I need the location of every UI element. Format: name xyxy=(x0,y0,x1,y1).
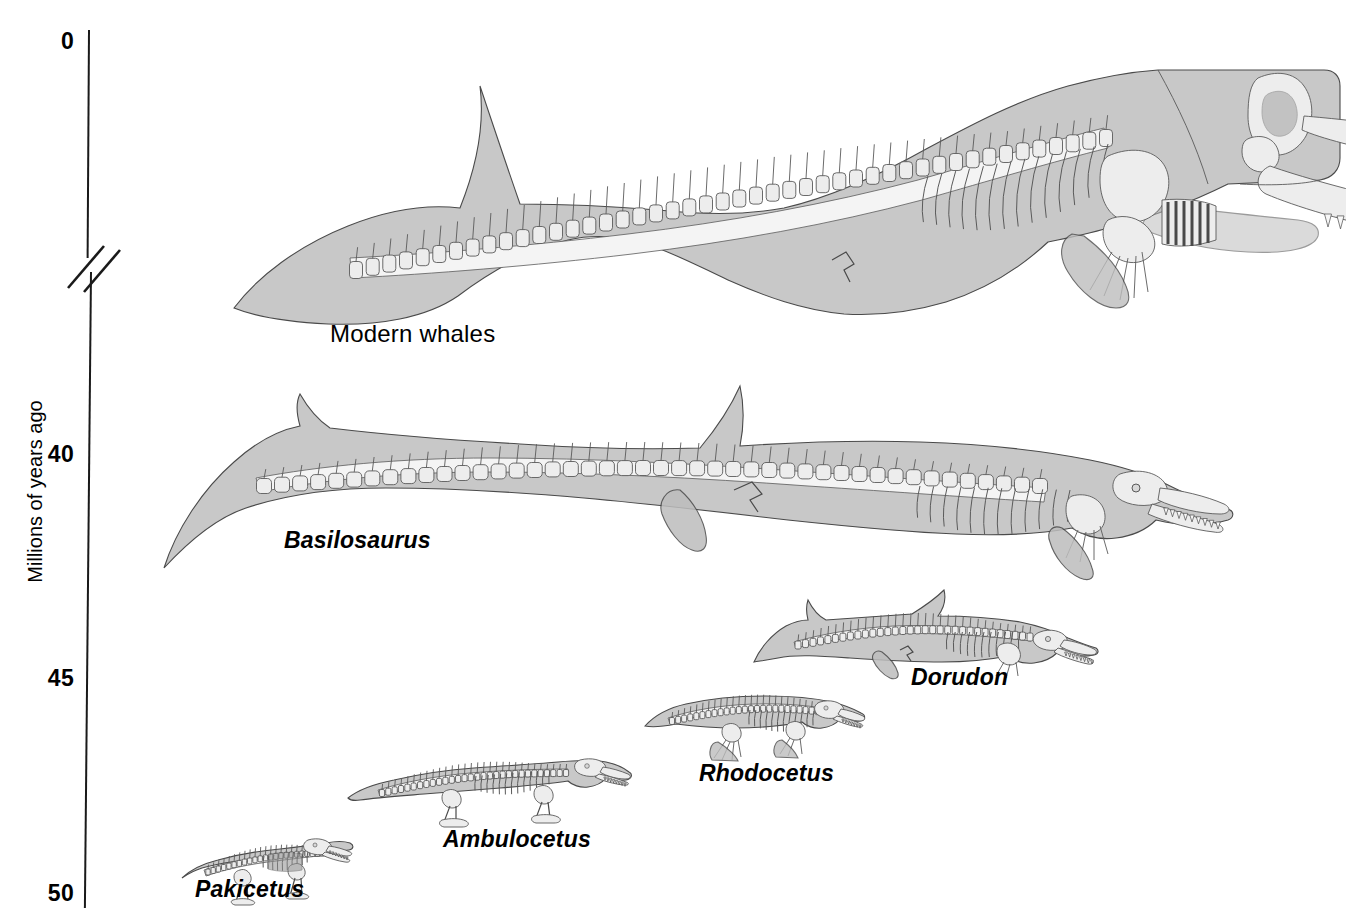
y-tick-label-45: 45 xyxy=(26,665,74,692)
label-basilosaurus: Basilosaurus xyxy=(284,527,431,554)
label-ambulocetus: Ambulocetus xyxy=(443,826,591,853)
y-axis-title: Millions of years ago xyxy=(24,377,47,607)
label-rhodocetus: Rhodocetus xyxy=(699,760,834,787)
organism-modern-whales xyxy=(228,8,1346,328)
label-modern-whales: Modern whales xyxy=(330,320,495,348)
label-dorudon: Dorudon xyxy=(911,664,1008,691)
y-axis-line-lower xyxy=(84,272,92,908)
y-axis-line-upper xyxy=(87,30,91,258)
organism-rhodocetus xyxy=(642,680,868,762)
y-tick-label-0: 0 xyxy=(26,28,74,55)
organism-ambulocetus xyxy=(344,740,634,830)
y-tick-label-50: 50 xyxy=(26,880,74,907)
axis-break-icon xyxy=(60,236,130,298)
label-pakicetus: Pakicetus xyxy=(195,876,304,903)
